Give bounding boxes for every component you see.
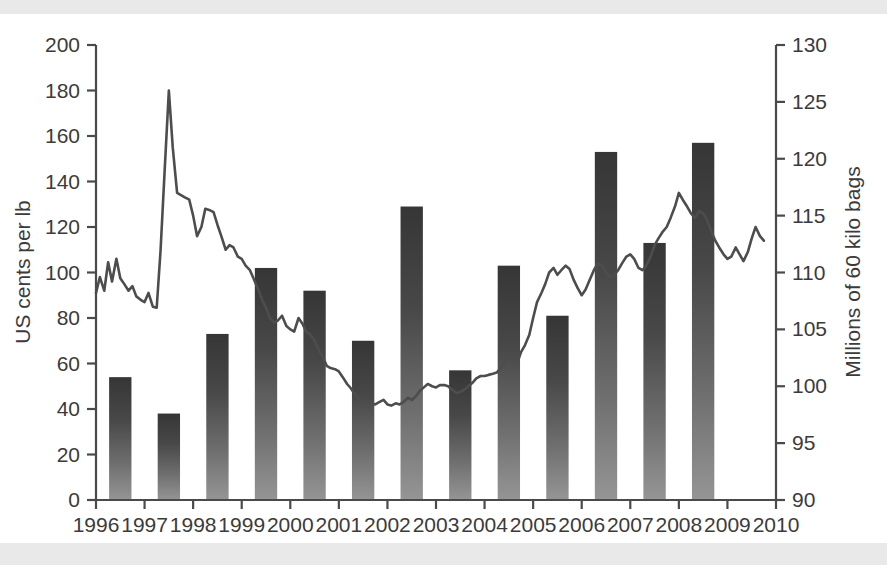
right-tick-label-120: 120: [792, 147, 827, 170]
x-tick-label-1996: 1996: [73, 513, 120, 536]
right-tick-label-95: 95: [792, 431, 815, 454]
bottom-axis: 1996199719981999200020012002200320042005…: [73, 500, 800, 536]
x-tick-label-2000: 2000: [267, 513, 314, 536]
right-tick-label-130: 130: [792, 33, 827, 56]
x-tick-label-1997: 1997: [121, 513, 168, 536]
x-tick-label-1998: 1998: [170, 513, 217, 536]
coffee-price-production-chart: 020406080100120140160180200 US cents per…: [0, 0, 887, 565]
bar-2002: [401, 207, 423, 500]
plot-area: [96, 91, 764, 501]
bar-2007: [643, 243, 665, 500]
bar-2000: [303, 291, 325, 500]
left-axis: 020406080100120140160180200 US cents per…: [11, 33, 96, 511]
x-tick-label-2009: 2009: [704, 513, 751, 536]
bar-2005: [546, 316, 568, 500]
bar-2006: [595, 152, 617, 500]
left-axis-ticks: 020406080100120140160180200: [45, 33, 96, 511]
right-tick-label-125: 125: [792, 90, 827, 113]
bottom-axis-labels: 1996199719981999200020012002200320042005…: [73, 513, 800, 536]
left-tick-label-80: 80: [57, 306, 80, 329]
left-tick-label-160: 160: [45, 124, 80, 147]
x-tick-label-2001: 2001: [315, 513, 362, 536]
bottom-axis-ticks: [96, 500, 776, 509]
left-tick-label-60: 60: [57, 352, 80, 375]
right-tick-label-90: 90: [792, 488, 815, 511]
left-tick-label-100: 100: [45, 261, 80, 284]
right-axis: 9095100105110115120125130 Millions of 60…: [776, 33, 864, 511]
bar-2008: [692, 143, 714, 500]
right-tick-label-115: 115: [792, 204, 825, 227]
left-tick-label-0: 0: [68, 488, 80, 511]
x-tick-label-2007: 2007: [607, 513, 654, 536]
right-tick-label-105: 105: [792, 317, 827, 340]
x-tick-label-2006: 2006: [558, 513, 605, 536]
bar-1999: [255, 268, 277, 500]
x-tick-label-2002: 2002: [364, 513, 411, 536]
left-axis-title: US cents per lb: [11, 200, 34, 344]
right-tick-label-100: 100: [792, 374, 827, 397]
right-tick-label-110: 110: [792, 261, 825, 284]
bar-1997: [158, 414, 180, 500]
left-tick-label-140: 140: [45, 170, 80, 193]
left-tick-label-20: 20: [57, 443, 80, 466]
x-tick-label-2005: 2005: [510, 513, 557, 536]
left-tick-label-120: 120: [45, 215, 80, 238]
x-tick-label-2008: 2008: [655, 513, 702, 536]
bar-series-group: [109, 143, 714, 500]
bar-2004: [498, 266, 520, 500]
x-tick-label-2004: 2004: [461, 513, 508, 536]
x-tick-label-1999: 1999: [218, 513, 265, 536]
right-axis-title: Millions of 60 kilo bags: [841, 166, 864, 377]
bar-1996: [109, 377, 131, 500]
left-tick-label-200: 200: [45, 33, 80, 56]
bar-2001: [352, 341, 374, 500]
left-tick-label-180: 180: [45, 79, 80, 102]
bar-1998: [206, 334, 228, 500]
x-tick-label-2010: 2010: [753, 513, 800, 536]
x-tick-label-2003: 2003: [413, 513, 460, 536]
chart-page: 020406080100120140160180200 US cents per…: [0, 0, 887, 565]
right-axis-ticks: 9095100105110115120125130: [776, 33, 827, 511]
left-tick-label-40: 40: [57, 397, 80, 420]
